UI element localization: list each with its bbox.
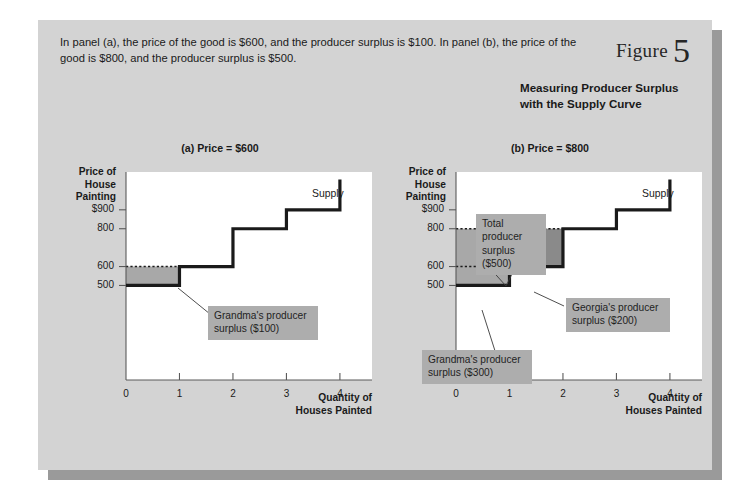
figure-title: Measuring Producer Surplus with the Supp… bbox=[520, 80, 690, 111]
y-tick-label-900: $900 bbox=[68, 203, 114, 214]
panel-b-note-grandma: Grandma's producer surplus ($300) bbox=[422, 350, 532, 384]
x-tick-label-0: 0 bbox=[447, 388, 465, 399]
y-tick-label-500: 500 bbox=[68, 279, 114, 290]
note-line-1: Georgia's producer bbox=[572, 301, 664, 314]
panel-b-supply-label: Supply bbox=[642, 188, 674, 199]
figure-word: Figure bbox=[616, 40, 668, 61]
note-line-2: surplus ($300) bbox=[428, 366, 526, 379]
note-line-2: surplus ($100) bbox=[214, 322, 312, 335]
y-axis-title-line-2: House bbox=[56, 179, 116, 192]
note-line-1: Grandma's producer bbox=[428, 353, 526, 366]
note-line-1: Total bbox=[482, 217, 540, 230]
y-tick-label-600: 600 bbox=[68, 260, 114, 271]
x-axis-title-line-2: Houses Painted bbox=[262, 405, 372, 418]
y-axis-title-line-1: Price of bbox=[56, 166, 116, 179]
x-axis-title-line-1: Quantity of bbox=[262, 392, 372, 405]
y-tick-label-600: 600 bbox=[398, 260, 444, 271]
note-line-2: surplus ($200) bbox=[572, 314, 664, 327]
panel-b-y-axis-title: Price of House Painting bbox=[386, 166, 446, 204]
figure-number: 5 bbox=[673, 32, 690, 69]
y-tick-label-800: 800 bbox=[398, 222, 444, 233]
panel-b-note-total: Total producer surplus ($500) bbox=[476, 214, 546, 275]
y-tick-label-800: 800 bbox=[68, 222, 114, 233]
panel-a-note-grandma: Grandma's producer surplus ($100) bbox=[208, 306, 318, 340]
y-axis-title-line-1: Price of bbox=[386, 166, 446, 179]
y-tick-label-500: 500 bbox=[398, 279, 444, 290]
panel-a-supply-label: Supply bbox=[312, 188, 344, 199]
x-tick-label-2: 2 bbox=[224, 388, 242, 399]
y-axis-title-line-3: Painting bbox=[56, 191, 116, 204]
panel-b-x-axis-title: Quantity of Houses Painted bbox=[592, 392, 702, 417]
x-tick-label-1: 1 bbox=[170, 388, 188, 399]
y-axis-title-line-2: House bbox=[386, 179, 446, 192]
x-tick-label-2: 2 bbox=[554, 388, 572, 399]
x-tick-label-0: 0 bbox=[117, 388, 135, 399]
figure-page: In panel (a), the price of the good is $… bbox=[0, 0, 750, 487]
y-tick-marks bbox=[119, 210, 126, 286]
panel-a-title: (a) Price = $600 bbox=[60, 142, 380, 154]
panel-a-x-axis-title: Quantity of Houses Painted bbox=[262, 392, 372, 417]
y-tick-label-900: $900 bbox=[398, 203, 444, 214]
note-line-2: producer bbox=[482, 230, 540, 243]
x-axis-title-line-1: Quantity of bbox=[592, 392, 702, 405]
y-tick-marks bbox=[449, 210, 456, 286]
panel-b-plot: Price of House Painting $900 800 600 500… bbox=[390, 164, 710, 414]
panel-b-note-georgia: Georgia's producer surplus ($200) bbox=[566, 298, 670, 332]
note-line-1: Grandma's producer bbox=[214, 309, 312, 322]
figure-number-block: Figure5 bbox=[616, 32, 690, 70]
note-line-3: surplus ($500) bbox=[482, 244, 540, 271]
x-axis-title-line-2: Houses Painted bbox=[592, 405, 702, 418]
panel-a-y-axis-title: Price of House Painting bbox=[56, 166, 116, 204]
panel-b-title: (b) Price = $800 bbox=[390, 142, 710, 154]
figure-caption: In panel (a), the price of the good is $… bbox=[60, 34, 580, 66]
x-tick-label-1: 1 bbox=[500, 388, 518, 399]
figure-card: In panel (a), the price of the good is $… bbox=[38, 20, 712, 470]
panel-a-plot: Price of House Painting $900 800 600 500… bbox=[60, 164, 380, 414]
grandma-surplus-region bbox=[126, 267, 179, 286]
y-axis-title-line-3: Painting bbox=[386, 191, 446, 204]
